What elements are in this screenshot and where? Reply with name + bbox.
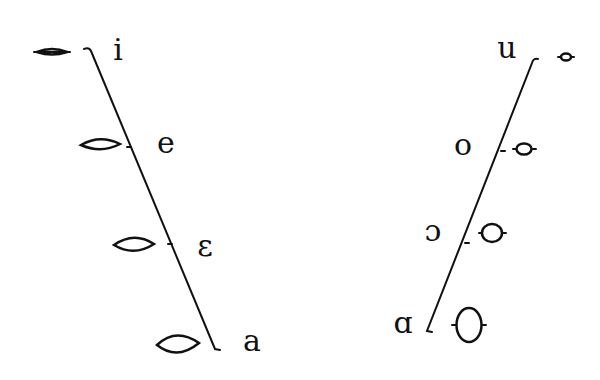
vowel-label-o: o xyxy=(454,130,472,160)
vowel-label-i: i xyxy=(113,35,123,65)
lip-shape-o-icon xyxy=(513,144,536,155)
lip-shape-script-a-icon xyxy=(452,308,486,342)
vowel-label-e: e xyxy=(157,128,175,158)
front-vowel-line xyxy=(84,48,220,350)
back-vowel-line xyxy=(427,59,538,332)
vowel-label-open-o: ɔ xyxy=(425,216,442,246)
vowel-lip-shape-diagram: i e ε a u o ɔ ɑ xyxy=(0,0,600,380)
vowel-label-epsilon: ε xyxy=(197,231,213,261)
lip-shape-epsilon-icon xyxy=(114,238,154,251)
vowel-label-u: u xyxy=(497,33,516,63)
lip-shape-a-icon xyxy=(157,335,199,352)
vowel-label-a: a xyxy=(243,326,261,356)
lip-shape-i-icon xyxy=(34,49,70,55)
lip-shape-open-o-icon xyxy=(479,224,506,242)
lip-shape-u-icon xyxy=(558,54,574,61)
lip-shape-e-icon xyxy=(81,139,120,149)
vowel-label-script-a: ɑ xyxy=(393,308,412,338)
